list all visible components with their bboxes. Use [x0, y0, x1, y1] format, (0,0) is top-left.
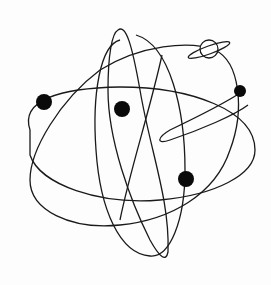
planet-dot-lower-right [178, 171, 194, 187]
orbit-tall-narrow [108, 29, 168, 257]
orbit-large-diagonal [30, 45, 238, 226]
orbit-drawing [0, 0, 271, 285]
planet-dot-left [36, 94, 52, 110]
planet-dot-right-small [234, 85, 246, 97]
orbit-illustration [0, 0, 271, 285]
planet-dot-center [114, 101, 130, 117]
ringed-planet-body [200, 40, 218, 58]
orbit-cross-line [120, 55, 162, 220]
